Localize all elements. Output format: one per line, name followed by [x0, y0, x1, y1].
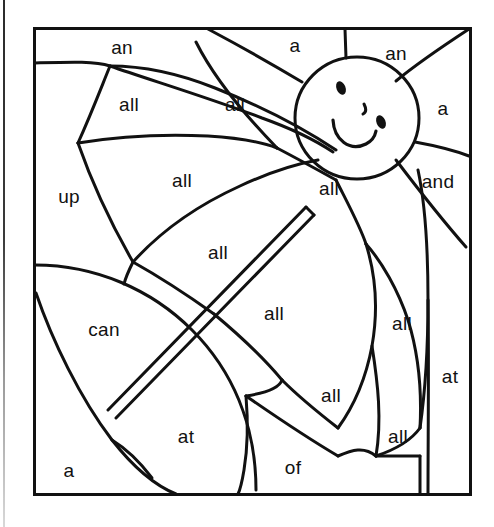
region-word: of	[285, 457, 301, 479]
region-word: all	[264, 303, 284, 325]
region-word: all	[172, 170, 192, 192]
region-word: all	[321, 385, 341, 407]
region-word: all	[119, 94, 139, 116]
region-word: all	[225, 94, 245, 116]
region-word: up	[58, 186, 80, 208]
region-word: all	[319, 178, 339, 200]
region-word: an	[385, 43, 407, 65]
region-word: can	[88, 319, 120, 341]
region-word: a	[290, 35, 301, 57]
worksheet-page: an a an all all a up all all and all all…	[0, 0, 494, 527]
region-word: a	[64, 460, 75, 482]
sun-ray-edge-top	[345, 29, 346, 58]
region-word: at	[442, 366, 458, 388]
region-word: at	[178, 426, 194, 448]
region-word: an	[111, 37, 133, 59]
region-word: all	[388, 426, 408, 448]
coloring-illustration	[0, 0, 494, 527]
region-word: all	[392, 313, 412, 335]
region-word: and	[422, 171, 455, 193]
region-word: all	[208, 242, 228, 264]
region-word: a	[438, 98, 449, 120]
